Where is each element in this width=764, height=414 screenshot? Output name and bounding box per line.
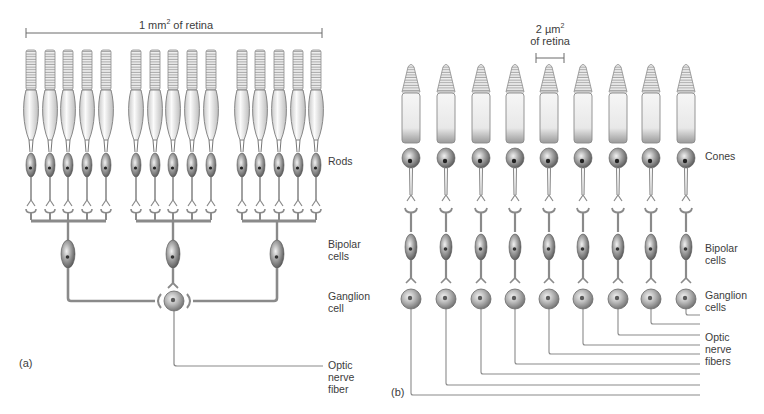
label-ganglion-cell: Ganglion cell [328, 290, 370, 314]
scale-label-a: 1 mm2 of retina [116, 18, 236, 31]
scale-bar-b [536, 53, 564, 63]
bipolar-cell [166, 240, 180, 268]
scale-label-b-line2: of retina [520, 35, 580, 47]
label-bipolar-cells-a: Bipolar cells [328, 238, 361, 262]
scale-label-b-prefix: 2 µm [536, 23, 561, 35]
label-optic-nerve-fibers: Optic nerve fibers [705, 331, 731, 367]
cones [401, 65, 696, 310]
scale-label-a-prefix: 1 mm [139, 19, 167, 31]
scale-label-b-sup: 2 [560, 22, 564, 29]
retina-convergence-diagram [0, 0, 764, 414]
bipolar-cell [270, 240, 284, 268]
label-rods: Rods [328, 155, 353, 167]
label-cones: Cones [705, 150, 735, 162]
optic-nerve-fiber [174, 311, 323, 366]
bipolar-cells-a [31, 221, 316, 240]
label-optic-nerve-fiber: Optic nerve fiber [328, 359, 354, 395]
label-ganglion-cells: Ganglion cells [705, 289, 747, 313]
label-bipolar-cells-b: Bipolar cells [705, 242, 738, 266]
panel-a [24, 28, 324, 366]
rods [24, 50, 324, 220]
scale-label-b: 2 µm2 of retina [520, 20, 580, 47]
panel-b-letter: (b) [391, 386, 404, 398]
optic-nerve-fibers [411, 309, 700, 395]
scale-label-a-suffix: of retina [170, 19, 213, 31]
panel-a-letter: (a) [19, 357, 32, 369]
bipolar-cell [61, 240, 75, 268]
panel-b [401, 53, 700, 395]
